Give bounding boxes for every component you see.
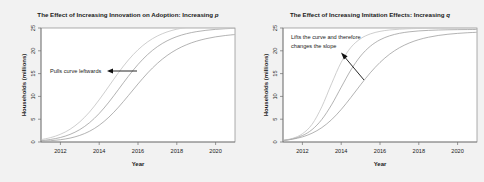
y-tick-label-5: 5: [272, 118, 278, 121]
x-tick-label-2012: 2012: [54, 148, 66, 154]
x-tick-label-2016: 2016: [132, 148, 144, 154]
annotation-text-left: Pulls curve leftwards: [50, 68, 101, 74]
y-tick-label-25: 25: [30, 25, 36, 31]
y-tick-label-10: 10: [272, 93, 278, 99]
panel-title-right-param: q: [446, 11, 450, 18]
y-tick-label-20: 20: [272, 48, 278, 54]
x-tick-label-2020: 2020: [209, 148, 221, 154]
x-tick-label-2014: 2014: [335, 148, 347, 154]
y-tick-label-15: 15: [30, 70, 36, 76]
panel-title-left-param: p: [214, 11, 219, 18]
y-tick-label-15: 15: [272, 70, 278, 76]
x-axis-title-left: Year: [132, 161, 145, 167]
y-axis-title-left: Households (millions): [21, 54, 27, 117]
panel-title-right-main: The Effect of Increasing Imitation Effec…: [290, 11, 446, 18]
panel-innovation: The Effect of Increasing Innovation on A…: [0, 0, 242, 182]
y-tick-label-10: 10: [30, 93, 36, 99]
y-axis-title-right: Households (millions): [263, 54, 269, 117]
x-axis-title-right: Year: [374, 161, 387, 167]
x-tick-label-2018: 2018: [171, 148, 183, 154]
x-tick-label-2018: 2018: [413, 148, 425, 154]
plot-area-left: [41, 28, 235, 142]
x-tick-label-2020: 2020: [451, 148, 463, 154]
y-tick-label-5: 5: [30, 118, 36, 121]
annotation-text-right-line2: changes the slope: [291, 43, 336, 49]
x-tick-label-2016: 2016: [374, 148, 386, 154]
panel-title-right: The Effect of Increasing Imitation Effec…: [290, 11, 450, 18]
y-tick-label-0: 0: [272, 140, 278, 143]
two-panel-figure: The Effect of Increasing Innovation on A…: [0, 0, 484, 182]
panel-title-left-main: The Effect of Increasing Innovation on A…: [37, 11, 215, 18]
x-tick-label-2014: 2014: [93, 148, 105, 154]
y-tick-label-20: 20: [30, 48, 36, 54]
x-tick-label-2012: 2012: [296, 148, 308, 154]
panel-title-left: The Effect of Increasing Innovation on A…: [37, 11, 219, 18]
annotation-text-right-line1: Lifts the curve and therefore: [291, 34, 361, 40]
panel-imitation: The Effect of Increasing Imitation Effec…: [242, 0, 484, 182]
y-tick-label-0: 0: [30, 140, 36, 143]
y-tick-label-25: 25: [272, 25, 278, 31]
